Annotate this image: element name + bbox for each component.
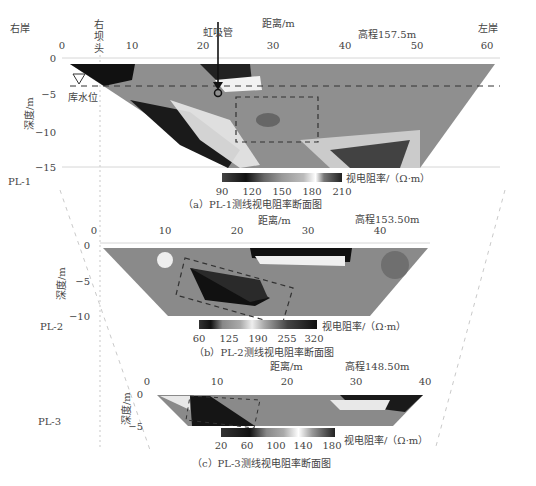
colorbar-pl1 [222,173,342,182]
colorbar-ticks-pl3: 20 60 100 140 180 [215,440,342,451]
caption-pl2: （b）PL-2测线视电阻率断面图 [194,346,334,358]
svg-text:20: 20 [197,40,210,51]
elevation-pl1: 高程157.5m [358,28,417,40]
pl2-x-ticks: 0 10 20 30 40 [91,225,387,236]
line-label-pl3: PL-3 [38,416,61,427]
colorbar-pl2 [199,320,317,329]
svg-text:−5: −5 [75,276,90,287]
svg-text:0: 0 [144,376,150,387]
svg-text:0: 0 [91,225,97,236]
colorbar-ticks-pl1: 90 120 150 180 210 [216,186,352,197]
depth-axis-label-pl2: 深度/m [55,267,67,300]
pl1-y-ticks: 0 −5 −10 −15 [35,53,56,173]
colorbar-pl3 [221,428,335,437]
svg-text:10: 10 [211,376,224,387]
svg-text:100: 100 [266,440,285,451]
svg-text:30: 30 [350,376,363,387]
svg-text:−10: −10 [69,311,90,322]
pl1-x-ticks: 0 10 20 30 40 50 60 [59,40,494,51]
svg-text:40: 40 [339,40,352,51]
left-bank-label: 左岸 [478,22,498,34]
elevation-pl3: 高程148.50m [345,360,410,372]
reservoir-level-label: 库水位 [68,91,98,103]
distance-axis-label: 距离/m [262,17,295,29]
svg-text:90: 90 [216,186,229,197]
figure-canvas: 右岸 左岸 右 坝 头 虹吸管 距离/m 高程157.5m 库水位 0 10 2… [0,0,536,486]
svg-text:180: 180 [322,440,341,451]
dam-head-3: 头 [94,43,104,54]
colorbar-ticks-pl2: 60 125 190 255 320 [193,333,324,344]
svg-text:30: 30 [267,40,280,51]
svg-text:0: 0 [50,53,56,64]
right-bank-label: 右岸 [10,22,30,34]
svg-text:50: 50 [411,40,424,51]
svg-text:40: 40 [374,225,387,236]
panel-pl2: 距离/m 高程153.50m 0 10 20 30 40 0 −5 −10 深度… [40,213,430,358]
svg-text:0: 0 [59,40,65,51]
dam-head-1: 右 [94,18,104,30]
svg-text:30: 30 [302,225,315,236]
svg-text:210: 210 [332,186,351,197]
distance-axis-label-pl2: 距离/m [258,214,291,226]
svg-text:320: 320 [304,333,323,344]
svg-text:40: 40 [419,376,432,387]
svg-text:20: 20 [281,376,294,387]
panel-pl1: 右岸 左岸 右 坝 头 虹吸管 距离/m 高程157.5m 库水位 0 10 2… [8,17,500,210]
svg-text:0: 0 [137,389,143,400]
svg-text:120: 120 [242,186,261,197]
siphon-label: 虹吸管 [203,26,233,38]
svg-text:0: 0 [84,240,90,251]
svg-text:−10: −10 [35,127,56,138]
distance-axis-label-pl3: 距离/m [270,360,303,372]
svg-text:60: 60 [193,333,206,344]
elevation-pl2: 高程153.50m [355,213,420,225]
svg-text:150: 150 [272,186,291,197]
svg-text:−15: −15 [35,162,56,173]
svg-text:10: 10 [126,40,139,51]
svg-text:60: 60 [481,40,494,51]
colorbar-unit-pl1: 视电阻率/（Ω·m） [346,172,430,184]
caption-pl3: （c）PL-3测线视电阻率断面图 [192,457,331,469]
caption-pl1: （a）PL-1测线视电阻率断面图 [183,198,322,210]
dam-head-2: 坝 [94,31,104,42]
svg-text:180: 180 [302,186,321,197]
svg-text:20: 20 [231,225,244,236]
depth-axis-label-pl1: 深度/m [23,97,35,130]
pl2-y-ticks: 0 −5 −10 [69,240,90,322]
line-label-pl2: PL-2 [40,321,63,332]
svg-text:255: 255 [277,333,296,344]
line-label-pl1: PL-1 [8,176,31,187]
panel-pl3: 距离/m 高程148.50m 0 10 20 30 40 0 −5 深度/m P… [38,360,431,469]
depth-axis-label-pl3: 深度/m [120,392,132,425]
pl1-section [70,64,495,168]
colorbar-unit-pl2: 视电阻率/（Ω·m） [322,320,406,332]
reservoir-level-icon [73,74,85,84]
svg-text:20: 20 [215,440,228,451]
svg-text:10: 10 [159,225,172,236]
svg-text:125: 125 [219,333,238,344]
pl3-x-ticks: 0 10 20 30 40 [144,376,432,387]
svg-text:140: 140 [293,440,312,451]
colorbar-unit-pl3: 视电阻率/（Ω·m） [344,434,428,446]
svg-text:190: 190 [248,333,267,344]
svg-text:−5: −5 [41,89,56,100]
svg-text:60: 60 [241,440,254,451]
